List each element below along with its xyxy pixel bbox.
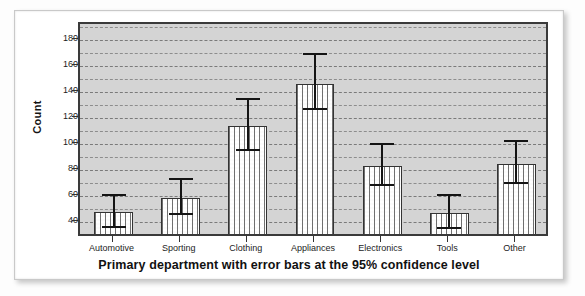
- error-bar-cap-lower: [102, 226, 126, 228]
- error-bar-stem: [180, 178, 182, 215]
- error-bar-cap-upper: [437, 194, 461, 196]
- x-tick-label: Other: [503, 243, 526, 253]
- x-tick-mark: [514, 236, 515, 242]
- error-bar-cap-lower: [437, 227, 461, 229]
- x-tick-mark: [179, 236, 180, 242]
- x-tick-label: Tools: [437, 243, 458, 253]
- error-bar-cap-upper: [504, 140, 528, 142]
- error-bar-cap-upper: [236, 98, 260, 100]
- error-bar: [234, 98, 262, 150]
- chart-paper: Count 406080100120140160180 AutomotiveSp…: [14, 10, 564, 280]
- x-tick-label: Clothing: [229, 243, 262, 253]
- error-bar-cap-upper: [169, 178, 193, 180]
- bar-series: [80, 24, 546, 234]
- scanned-page-background: Count 406080100120140160180 AutomotiveSp…: [0, 0, 585, 296]
- error-bar-cap-upper: [303, 53, 327, 55]
- x-tick-mark: [447, 236, 448, 242]
- bar-chart: Count 406080100120140160180 AutomotiveSp…: [15, 11, 563, 279]
- y-axis-ticks: 406080100120140160180: [32, 11, 78, 279]
- error-bar: [435, 194, 463, 229]
- error-bar-stem: [448, 194, 450, 229]
- error-bar: [167, 178, 195, 215]
- error-bar-cap-lower: [370, 184, 394, 186]
- x-tick-label: Electronics: [358, 243, 402, 253]
- error-bar-cap-lower: [169, 213, 193, 215]
- error-bar-stem: [247, 98, 249, 150]
- x-tick-mark: [380, 236, 381, 242]
- plot-area: [78, 22, 548, 236]
- error-bar-stem: [113, 194, 115, 228]
- error-bar-stem: [515, 140, 517, 184]
- error-bar-cap-lower: [303, 108, 327, 110]
- x-axis-title: Primary department with error bars at th…: [15, 258, 563, 272]
- error-bar-cap-upper: [370, 143, 394, 145]
- error-bar: [502, 140, 530, 184]
- error-bar-stem: [314, 53, 316, 110]
- x-tick-mark: [246, 236, 247, 242]
- error-bar-stem: [381, 143, 383, 186]
- x-tick-label: Automotive: [89, 243, 134, 253]
- error-bar: [368, 143, 396, 186]
- x-tick-label: Sporting: [162, 243, 196, 253]
- x-tick-label: Appliances: [291, 243, 335, 253]
- error-bar: [301, 53, 329, 110]
- x-tick-mark: [313, 236, 314, 242]
- error-bar-cap-lower: [504, 182, 528, 184]
- error-bar-cap-lower: [236, 149, 260, 151]
- error-bar: [100, 194, 128, 228]
- x-tick-mark: [112, 236, 113, 242]
- error-bar-cap-upper: [102, 194, 126, 196]
